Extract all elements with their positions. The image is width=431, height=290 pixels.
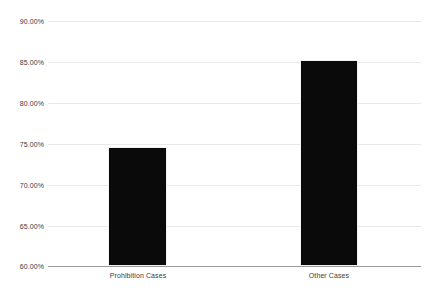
y-tick-label-65: 65.00% <box>0 223 44 230</box>
gridline-80 <box>48 103 421 104</box>
y-tick-label-75: 75.00% <box>0 141 44 148</box>
y-tick-label-60: 60.00% <box>0 263 44 270</box>
x-axis-line <box>48 266 421 267</box>
x-tick-label-prohibition-cases: Prohibition Cases <box>88 271 188 280</box>
gridline-85 <box>48 62 421 63</box>
y-tick-label-80: 80.00% <box>0 100 44 107</box>
gridline-65 <box>48 226 421 227</box>
bar-chart: 90.00% 85.00% 80.00% 75.00% 70.00% 65.00… <box>0 0 431 290</box>
y-tick-label-85: 85.00% <box>0 59 44 66</box>
bar-other-cases <box>300 60 358 266</box>
gridline-75 <box>48 144 421 145</box>
bar-prohibition-cases <box>108 147 167 266</box>
y-tick-label-90: 90.00% <box>0 18 44 25</box>
y-axis: 90.00% 85.00% 80.00% 75.00% 70.00% 65.00… <box>0 0 44 290</box>
plot-area <box>48 21 421 266</box>
y-tick-label-70: 70.00% <box>0 182 44 189</box>
gridline-90 <box>48 21 421 22</box>
gridline-70 <box>48 185 421 186</box>
x-tick-label-other-cases: Other Cases <box>279 271 379 280</box>
